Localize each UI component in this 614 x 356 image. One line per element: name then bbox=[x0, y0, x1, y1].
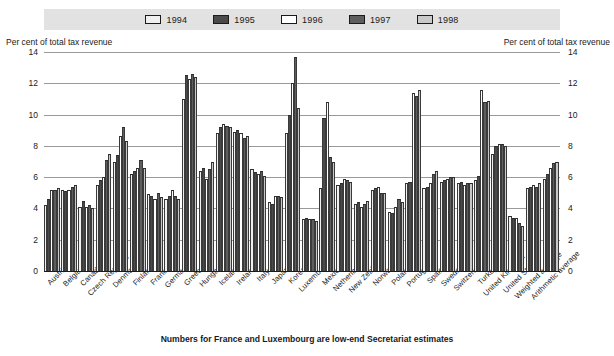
bar-group bbox=[405, 52, 422, 271]
bar-group bbox=[199, 52, 216, 271]
legend-item-1994: 1994 bbox=[145, 15, 187, 25]
bar bbox=[57, 188, 60, 271]
bar bbox=[487, 101, 490, 272]
y-axis-caption-left: Per cent of total tax revenue bbox=[6, 37, 112, 47]
bar bbox=[349, 182, 352, 271]
y-tick-r-14: 14 bbox=[568, 47, 594, 57]
legend-item-1997: 1997 bbox=[349, 15, 391, 25]
legend-item-1995: 1995 bbox=[213, 15, 255, 25]
bar-group bbox=[250, 52, 267, 271]
chart-legend: 1994 1995 1996 1997 1998 bbox=[44, 9, 560, 30]
bar bbox=[143, 168, 146, 271]
legend-swatch-1998 bbox=[417, 15, 433, 24]
bar-group bbox=[508, 52, 525, 271]
bar bbox=[452, 177, 455, 271]
bar-group bbox=[285, 52, 302, 271]
bar-group bbox=[216, 52, 233, 271]
bar bbox=[280, 197, 283, 271]
bar-group bbox=[182, 52, 199, 271]
legend-swatch-1995 bbox=[213, 15, 229, 24]
bar-group bbox=[336, 52, 353, 271]
bar bbox=[125, 141, 128, 271]
bar-group bbox=[474, 52, 491, 271]
legend-swatch-1996 bbox=[281, 15, 297, 24]
bar-group bbox=[457, 52, 474, 271]
legend-label-1994: 1994 bbox=[166, 15, 187, 25]
y-axis-caption-right: Per cent of total tax revenue bbox=[504, 37, 610, 47]
bar bbox=[366, 201, 369, 271]
bar-group bbox=[354, 52, 371, 271]
y-tick-l-14: 14 bbox=[12, 47, 38, 57]
bar bbox=[91, 208, 94, 271]
bar bbox=[555, 162, 558, 272]
bar-group bbox=[96, 52, 113, 271]
y-tick-l-6: 6 bbox=[12, 172, 38, 182]
bar bbox=[160, 197, 163, 271]
y-tick-l-10: 10 bbox=[12, 110, 38, 120]
bar-group bbox=[78, 52, 95, 271]
bar-groups bbox=[44, 52, 560, 271]
bar-group bbox=[147, 52, 164, 271]
bar-group bbox=[268, 52, 285, 271]
y-tick-l-4: 4 bbox=[12, 203, 38, 213]
bar bbox=[246, 136, 249, 271]
y-tick-r-6: 6 bbox=[568, 172, 594, 182]
bar-group bbox=[319, 52, 336, 271]
bar-group bbox=[233, 52, 250, 271]
legend-label-1995: 1995 bbox=[234, 15, 255, 25]
chart-plot-area bbox=[44, 52, 560, 271]
legend-swatch-1994 bbox=[145, 15, 161, 24]
bar bbox=[297, 108, 300, 271]
bar-group bbox=[302, 52, 319, 271]
bar-group bbox=[371, 52, 388, 271]
bar bbox=[263, 176, 266, 271]
bar bbox=[332, 162, 335, 272]
bar-group bbox=[44, 52, 61, 271]
bar-group bbox=[388, 52, 405, 271]
bar bbox=[401, 202, 404, 271]
x-axis-category-labels: AustriaBelgiumCanadaCzech RepublicDenmar… bbox=[44, 272, 560, 332]
y-tick-r-12: 12 bbox=[568, 78, 594, 88]
bar bbox=[538, 183, 541, 271]
bar-group bbox=[526, 52, 543, 271]
y-tick-r-2: 2 bbox=[568, 235, 594, 245]
y-tick-r-8: 8 bbox=[568, 141, 594, 151]
bar-group bbox=[113, 52, 130, 271]
bar-group bbox=[130, 52, 147, 271]
bar bbox=[315, 221, 318, 271]
bar-group bbox=[491, 52, 508, 271]
bar bbox=[435, 171, 438, 271]
legend-item-1998: 1998 bbox=[417, 15, 459, 25]
bar bbox=[229, 127, 232, 271]
bar bbox=[211, 162, 214, 272]
bar bbox=[108, 154, 111, 271]
bar-group bbox=[543, 52, 560, 271]
bar-group bbox=[440, 52, 457, 271]
bar bbox=[418, 90, 421, 271]
bar-group bbox=[164, 52, 181, 271]
legend-label-1997: 1997 bbox=[370, 15, 391, 25]
bar bbox=[74, 185, 77, 271]
y-tick-r-10: 10 bbox=[568, 110, 594, 120]
bar-group bbox=[61, 52, 78, 271]
y-tick-r-0: 0 bbox=[568, 266, 594, 276]
y-tick-l-2: 2 bbox=[12, 235, 38, 245]
legend-label-1998: 1998 bbox=[438, 15, 459, 25]
bar bbox=[504, 146, 507, 271]
bar bbox=[194, 77, 197, 271]
bar bbox=[469, 183, 472, 271]
bar bbox=[383, 193, 386, 271]
y-tick-l-8: 8 bbox=[12, 141, 38, 151]
chart-footnote: Numbers for France and Luxembourg are lo… bbox=[0, 334, 614, 344]
legend-swatch-1997 bbox=[349, 15, 365, 24]
y-tick-l-0: 0 bbox=[12, 266, 38, 276]
bar-group bbox=[422, 52, 439, 271]
legend-item-1996: 1996 bbox=[281, 15, 323, 25]
y-tick-r-4: 4 bbox=[568, 203, 594, 213]
bar bbox=[521, 226, 524, 271]
bar bbox=[177, 199, 180, 271]
legend-label-1996: 1996 bbox=[302, 15, 323, 25]
y-tick-l-12: 12 bbox=[12, 78, 38, 88]
